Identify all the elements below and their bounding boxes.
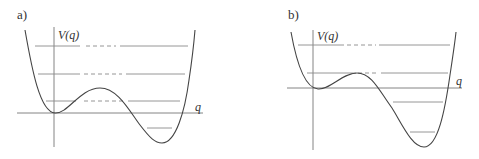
panel-a-energy-levels: [35, 46, 188, 128]
panel-b-x-axis-label: q: [456, 74, 462, 88]
panel-a-label: a): [17, 7, 27, 22]
panel-a: a) V(q) q: [17, 7, 203, 147]
panel-b-potential-curve: [291, 32, 456, 147]
panel-a-x-axis-label: q: [195, 100, 201, 114]
panel-b-y-axis-label: V(q): [317, 29, 338, 43]
panel-b-label: b): [288, 7, 299, 22]
panel-a-y-axis-label: V(q): [58, 28, 79, 42]
panel-a-potential-curve: [25, 30, 195, 143]
figure: a) V(q) q b) V(q) q: [0, 0, 479, 159]
panel-b: b) V(q) q: [287, 7, 462, 150]
